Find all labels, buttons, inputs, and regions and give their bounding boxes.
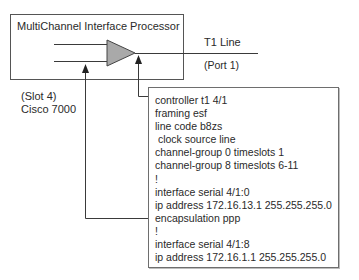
config-line: channel-group 8 timeslots 6-11	[155, 159, 332, 172]
config-line: !	[155, 173, 332, 186]
config-line: ip address 172.16.1.1 255.255.255.0	[155, 251, 332, 264]
config-line: interface serial 4/1:0	[155, 186, 332, 199]
config-line: controller t1 4/1	[155, 94, 332, 107]
config-line: ip address 172.16.13.1 255.255.255.0	[155, 199, 332, 212]
config-line: channel-group 0 timeslots 1	[155, 146, 332, 159]
config-line: interface serial 4/1:8	[155, 238, 332, 251]
config-line: framing esf	[155, 107, 332, 120]
config-line: clock source line	[155, 133, 332, 146]
config-text: controller t1 4/1 framing esf line code …	[155, 94, 332, 264]
port-label: (Port 1)	[204, 59, 239, 72]
t1-line-label: T1 Line	[204, 36, 241, 49]
router-label: Cisco 7000	[21, 103, 76, 116]
config-line: line code b8zs	[155, 120, 332, 133]
multiplexer-triangle-icon	[107, 40, 135, 66]
config-line: !	[155, 225, 332, 238]
processor-title: MultiChannel Interface Processor	[17, 20, 180, 33]
slot-label: (Slot 4)	[21, 90, 56, 103]
config-box: controller t1 4/1 framing esf line code …	[148, 87, 339, 268]
config-line: encapsulation ppp	[155, 212, 332, 225]
arrowhead-up-icon	[82, 64, 89, 73]
arrowhead-up-icon	[135, 55, 142, 64]
